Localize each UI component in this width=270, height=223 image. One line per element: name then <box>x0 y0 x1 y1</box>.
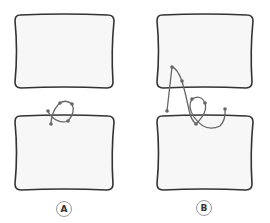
control-point[interactable] <box>165 109 169 113</box>
panel-b-label: B <box>196 200 212 216</box>
control-point[interactable] <box>190 97 194 101</box>
control-point[interactable] <box>203 101 207 105</box>
control-point[interactable] <box>194 122 198 126</box>
control-point[interactable] <box>66 119 70 123</box>
diagram-canvas <box>0 0 270 223</box>
control-point[interactable] <box>46 109 50 113</box>
control-point[interactable] <box>70 102 74 106</box>
panel-a-bottom-box <box>15 115 114 190</box>
control-point[interactable] <box>180 79 184 83</box>
control-point[interactable] <box>49 122 53 126</box>
panel-a-top-box <box>15 14 114 88</box>
panel-a-label: A <box>56 201 72 217</box>
panel-a <box>15 14 114 190</box>
panel-b <box>157 14 253 190</box>
control-point[interactable] <box>170 65 174 69</box>
control-point[interactable] <box>223 107 227 111</box>
control-point[interactable] <box>58 101 62 105</box>
